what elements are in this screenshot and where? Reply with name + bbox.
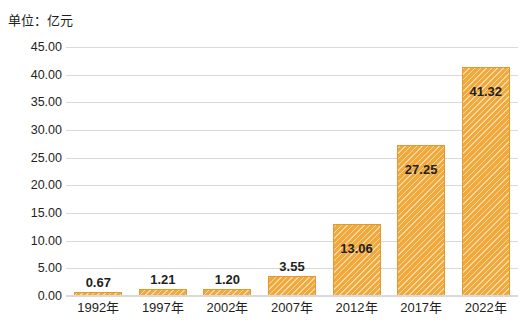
bar[interactable] — [268, 276, 316, 296]
bar-slot: 1.20 — [195, 47, 260, 296]
y-tick-label: 25.00 — [4, 152, 62, 164]
x-tick-label: 1992年 — [62, 300, 134, 315]
bar-slot: 0.67 — [66, 47, 131, 296]
bar-slot: 13.06 — [324, 47, 389, 296]
y-tick-label: 35.00 — [4, 96, 62, 108]
y-tick-label: 40.00 — [4, 69, 62, 81]
bar-value-label: 1.21 — [131, 273, 196, 287]
x-axis-baseline — [66, 295, 518, 296]
x-tick-label: 2012年 — [321, 300, 393, 315]
y-tick-label: 0.00 — [4, 290, 62, 302]
y-tick-label: 15.00 — [4, 207, 62, 219]
bar-value-label: 27.25 — [389, 163, 454, 177]
y-gridline — [66, 296, 518, 297]
x-axis-tick-labels: 1992年1997年2002年2007年2012年2017年2022年 — [66, 300, 518, 322]
bar-value-label: 0.67 — [66, 276, 131, 290]
y-tick-label: 10.00 — [4, 235, 62, 247]
bar-value-label: 41.32 — [453, 85, 518, 99]
x-tick-label: 2022年 — [450, 300, 522, 315]
bar-slot: 41.32 — [453, 47, 518, 296]
y-tick-label: 30.00 — [4, 124, 62, 136]
y-axis-tick-labels: 0.005.0010.0015.0020.0025.0030.0035.0040… — [0, 47, 62, 296]
bar[interactable] — [333, 224, 381, 296]
bar-slot: 1.21 — [131, 47, 196, 296]
bar-value-label: 3.55 — [260, 260, 325, 274]
unit-label: 单位：亿元 — [8, 13, 73, 29]
x-tick-label: 1997年 — [127, 300, 199, 315]
x-tick-label: 2007年 — [256, 300, 328, 315]
bar-slot: 27.25 — [389, 47, 454, 296]
y-tick-label: 20.00 — [4, 179, 62, 191]
x-tick-label: 2017年 — [385, 300, 457, 315]
x-tick-label: 2002年 — [191, 300, 263, 315]
y-tick-label: 5.00 — [4, 262, 62, 274]
bar-value-label: 13.06 — [324, 242, 389, 256]
bar-slot: 3.55 — [260, 47, 325, 296]
bar[interactable] — [462, 67, 510, 296]
bar-value-label: 1.20 — [195, 273, 260, 287]
bar-chart: 单位：亿元 0.005.0010.0015.0020.0025.0030.003… — [0, 0, 528, 333]
y-tick-label: 45.00 — [4, 41, 62, 53]
plot-area: 0.671.211.203.5513.0627.2541.32 — [66, 47, 518, 296]
